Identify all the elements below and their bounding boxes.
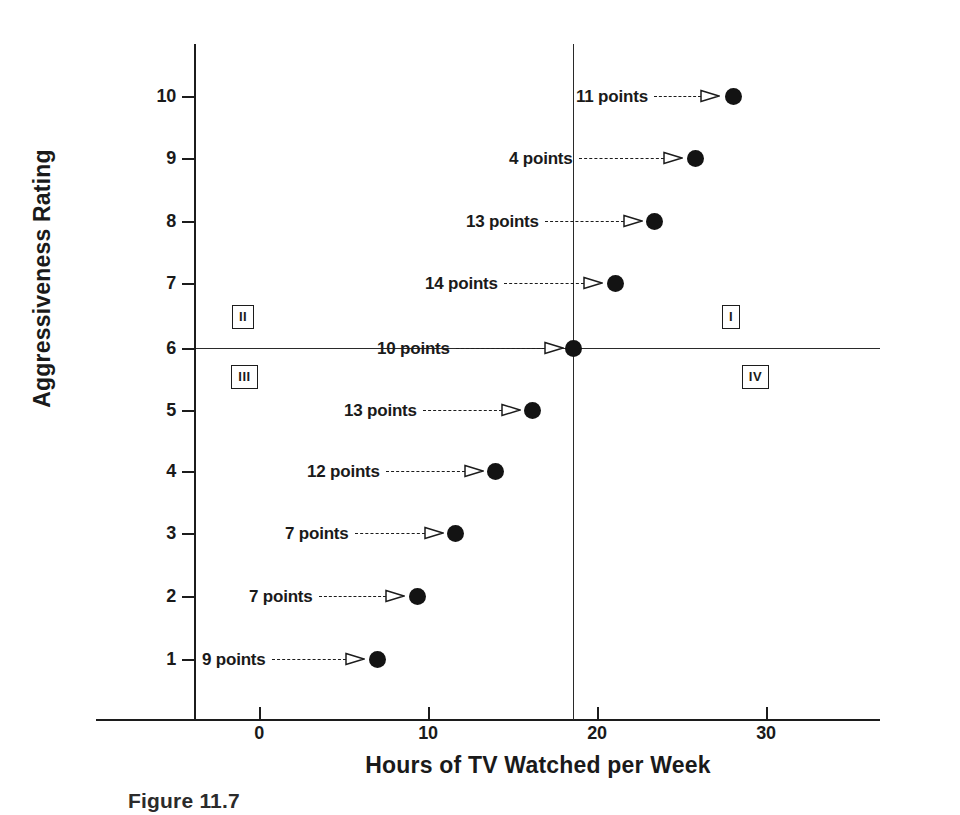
annotation-rating-2-line [319, 596, 386, 597]
annotation-rating-9-label: 4 points [509, 150, 579, 167]
annotation-rating-5: 13 points [344, 399, 521, 421]
y-axis-label-7: 7 [136, 274, 176, 292]
data-point [725, 88, 742, 105]
annotation-rating-10-line [654, 96, 701, 97]
y-axis-tick-10 [182, 96, 194, 98]
annotation-rating-5-line [423, 410, 502, 411]
annotation-rating-7-label: 14 points [425, 275, 504, 292]
y-axis-label-10-text: 10 [142, 87, 176, 105]
annotation-rating-3-line [355, 533, 425, 534]
y-axis-label-1-text: 1 [142, 650, 176, 668]
scatter-plot-figure: 10 9 8 7 6 5 4 3 2 1 0 10 20 30 Aggressi… [0, 0, 960, 815]
data-point [646, 213, 663, 230]
y-axis-label-5: 5 [136, 401, 176, 419]
quadrant-label-2: II [232, 305, 254, 329]
x-axis-tick-10 [428, 707, 430, 719]
y-axis-label-8-text: 8 [142, 212, 176, 230]
annotation-rating-4-line [386, 471, 465, 472]
data-point [607, 275, 624, 292]
annotation-rating-9: 4 points [509, 147, 683, 169]
x-axis-tick-20 [597, 707, 599, 719]
x-axis-label-10: 10 [398, 723, 458, 744]
annotation-rating-6-line [456, 348, 545, 349]
y-axis-label-10: 10 [136, 87, 176, 105]
y-axis-label-6: 6 [136, 339, 176, 357]
y-axis-tick-7 [182, 283, 194, 285]
data-point [565, 340, 582, 357]
quadrant-label-3: III [231, 365, 258, 389]
y-axis-tick-3 [182, 533, 194, 535]
annotation-rating-8-line [545, 221, 624, 222]
y-axis-label-1: 1 [136, 650, 176, 668]
data-point [687, 150, 704, 167]
quadrant-label-4: IV [742, 365, 769, 389]
y-axis-tick-1 [182, 659, 194, 661]
arrow-right-icon [501, 403, 521, 417]
y-axis-title: Aggressiveness Rating [29, 129, 56, 429]
y-axis-label-7-text: 7 [142, 274, 176, 292]
x-axis-line [96, 719, 880, 721]
figure-number: Figure 11.7 [128, 789, 240, 812]
annotation-rating-4: 12 points [307, 460, 484, 482]
annotation-rating-1: 9 points [202, 648, 365, 670]
annotation-rating-6: 10 points [377, 337, 564, 359]
arrow-right-icon [544, 341, 564, 355]
quadrant-label-1: I [722, 305, 740, 329]
x-axis-label-30: 30 [736, 723, 796, 744]
data-point [369, 651, 386, 668]
y-axis-label-3: 3 [136, 524, 176, 542]
arrow-right-icon [583, 276, 603, 290]
arrow-right-icon [345, 652, 365, 666]
arrow-right-icon [464, 464, 484, 478]
x-axis-label-0: 0 [229, 723, 289, 744]
y-axis-label-2-text: 2 [142, 587, 176, 605]
y-axis-label-8: 8 [136, 212, 176, 230]
y-axis-tick-2 [182, 596, 194, 598]
y-axis-label-3-text: 3 [142, 524, 176, 542]
figure-caption: Figure 11.7 [128, 789, 252, 813]
x-axis-label-20: 20 [567, 723, 627, 744]
y-axis-label-4-text: 4 [142, 462, 176, 480]
y-axis-label-2: 2 [136, 587, 176, 605]
annotation-rating-2-label: 7 points [249, 588, 319, 605]
annotation-rating-1-label: 9 points [202, 651, 272, 668]
y-axis-line [194, 44, 196, 720]
x-axis-title: Hours of TV Watched per Week [196, 752, 880, 779]
data-point [524, 402, 541, 419]
data-point [409, 588, 426, 605]
data-point [487, 463, 504, 480]
y-axis-tick-8 [182, 221, 194, 223]
arrow-right-icon [623, 214, 643, 228]
annotation-rating-10: 11 points [576, 85, 720, 107]
annotation-rating-8: 13 points [466, 210, 643, 232]
x-axis-tick-30 [766, 707, 768, 719]
y-axis-label-9: 9 [136, 149, 176, 167]
annotation-rating-5-label: 13 points [344, 402, 423, 419]
annotation-rating-7: 14 points [425, 272, 603, 294]
annotation-rating-4-label: 12 points [307, 463, 386, 480]
y-axis-tick-4 [182, 471, 194, 473]
annotation-rating-2: 7 points [249, 585, 405, 607]
y-axis-tick-9 [182, 158, 194, 160]
annotation-rating-3-label: 7 points [285, 525, 355, 542]
x-axis-tick-0 [259, 707, 261, 719]
annotation-rating-3: 7 points [285, 522, 444, 544]
annotation-rating-7-line [504, 283, 584, 284]
y-axis-tick-6 [182, 348, 194, 350]
arrow-right-icon [700, 89, 720, 103]
arrow-right-icon [663, 151, 683, 165]
y-axis-label-5-text: 5 [142, 401, 176, 419]
y-axis-label-9-text: 9 [142, 149, 176, 167]
annotation-rating-8-label: 13 points [466, 213, 545, 230]
annotation-rating-1-line [272, 659, 346, 660]
annotation-rating-10-label: 11 points [576, 88, 654, 105]
y-axis-tick-5 [182, 410, 194, 412]
vertical-reference-line [573, 44, 574, 720]
arrow-right-icon [385, 589, 405, 603]
y-axis-label-6-text: 6 [142, 339, 176, 357]
arrow-right-icon [424, 526, 444, 540]
annotation-rating-6-label: 10 points [377, 340, 456, 357]
annotation-rating-9-line [579, 158, 664, 159]
y-axis-label-4: 4 [136, 462, 176, 480]
data-point [447, 525, 464, 542]
